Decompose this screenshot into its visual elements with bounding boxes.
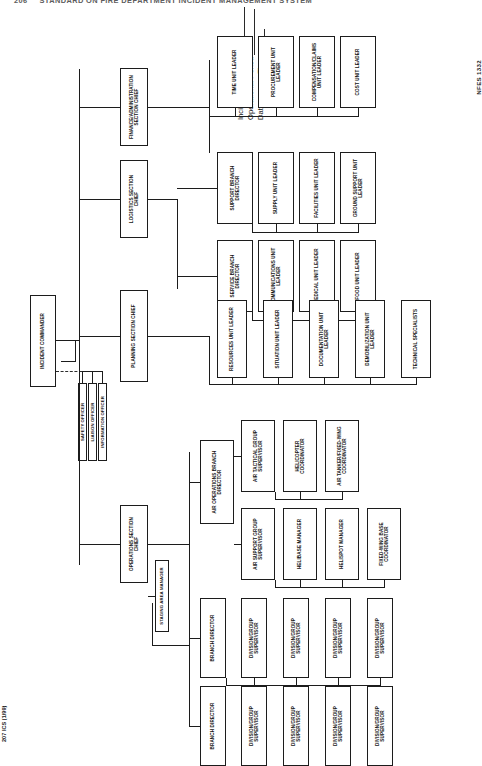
connector-support-bar <box>252 232 359 233</box>
connector-ic-to-spine <box>56 340 80 341</box>
connector-service-branch-down <box>252 312 253 321</box>
connector-service-branch-in <box>177 276 217 277</box>
connector-branch-bar <box>152 645 190 646</box>
connector-branch1-down <box>226 678 227 686</box>
connector-branch1-in <box>189 638 200 639</box>
box-fixed-wing-base-coordinator[interactable]: FIXED-WING BASE COORDINATOR <box>367 508 401 580</box>
connector-staff-bus <box>82 371 103 372</box>
box-air-operations-branch-director[interactable]: AIR OPERATIONS BRANCH DIRECTOR <box>200 440 234 524</box>
box-division-group-supervisor-2b[interactable]: DIVISION/GROUP SUPERVISOR <box>283 686 309 766</box>
box-division-group-supervisor-1d[interactable]: DIVISION/GROUP SUPERVISOR <box>367 598 393 678</box>
box-division-group-supervisor-2c[interactable]: DIVISION/GROUP SUPERVISOR <box>325 686 351 766</box>
box-division-group-supervisor-1a[interactable]: DIVISION/GROUP SUPERVISOR <box>241 598 267 678</box>
box-branch-director-1[interactable]: BRANCH DIRECTOR <box>200 598 226 678</box>
box-documentation-unit-leader[interactable]: DOCUMENTATION UNIT LEADER <box>309 300 339 378</box>
connector-asgs-down <box>275 580 276 588</box>
connector-atgs-bar <box>275 499 343 500</box>
connector-ops-bus <box>189 452 190 612</box>
box-staging-area-manager[interactable]: STAGING AREA MANAGER <box>155 560 169 632</box>
box-division-group-supervisor-1c[interactable]: DIVISION/GROUP SUPERVISOR <box>325 598 351 678</box>
box-support-branch-director[interactable]: SUPPORT BRANCH DIRECTOR <box>217 152 253 224</box>
box-helicopter-coordinator[interactable]: HELICOPTER COORDINATOR <box>283 420 317 492</box>
connector-finance-bus <box>209 60 210 153</box>
connector-spine-logistics <box>79 199 120 200</box>
connector-spine-operations <box>79 544 120 545</box>
connector-finance-bar <box>209 116 359 117</box>
box-finance-section-chief[interactable]: FINANCE/ADMINISTRATION SECTION CHIEF <box>120 68 148 146</box>
box-branch-director-2[interactable]: BRANCH DIRECTOR <box>200 686 226 766</box>
box-compensation-claims-unit-leader[interactable]: COMPENSATION/CLAIMS UNIT LEADER <box>299 36 335 108</box>
box-information-officer[interactable]: INFORMATION OFFICER <box>98 383 107 461</box>
box-division-group-supervisor-2d[interactable]: DIVISION/GROUP SUPERVISOR <box>367 686 393 766</box>
connector-air-ops-in <box>189 482 200 483</box>
connector-planning-bar <box>209 384 417 385</box>
box-resources-unit-leader[interactable]: RESOURCES UNIT LEADER <box>217 300 247 378</box>
connector-staff-drop-2 <box>92 371 93 383</box>
box-division-group-supervisor-2a[interactable]: DIVISION/GROUP SUPERVISOR <box>241 686 267 766</box>
box-division-group-supervisor-1b[interactable]: DIVISION/GROUP SUPERVISOR <box>283 598 309 678</box>
connector-ops-stem <box>148 544 190 545</box>
nfes-number: NFES 1332 <box>475 60 482 95</box>
box-ground-support-unit-leader[interactable]: GROUND SUPPORT UNIT LEADER <box>340 152 376 224</box>
connector-atgs-down <box>275 492 276 500</box>
connector-spine-finance <box>79 107 120 108</box>
connector-finance-bus-stem <box>148 107 210 108</box>
connector-command-staff-stem <box>75 340 76 362</box>
connector-branch-bus-left <box>152 603 153 646</box>
connector-logistics-stem <box>148 199 178 200</box>
box-procurement-unit-leader[interactable]: PROCUREMENT UNIT LEADER <box>258 36 294 108</box>
box-situation-unit-leader[interactable]: SITUATION UNIT LEADER <box>263 300 293 378</box>
box-technical-specialists[interactable]: TECHNICAL SPECIALISTS <box>401 300 431 378</box>
connector-branch2-in <box>189 726 200 727</box>
box-air-support-group-supervisor[interactable]: AIR SUPPORT GROUP SUPERVISOR <box>241 508 275 580</box>
connector-planning-bus <box>209 336 210 385</box>
form-number: 207 ICS (1/99) <box>1 706 7 742</box>
box-incident-commander[interactable]: INCIDENT COMMANDER <box>30 295 56 387</box>
connector-staff-drop-3 <box>102 371 103 383</box>
connector-support-branch-in <box>177 188 217 189</box>
box-liaison-officer[interactable]: LIAISON OFFICER <box>88 383 97 461</box>
connector-asgs-bar <box>275 587 385 588</box>
box-helispot-manager[interactable]: HELISPOT MANAGER <box>325 508 359 580</box>
connector-planning-stem <box>148 336 209 337</box>
spine-main <box>79 107 80 544</box>
box-air-tactical-group-supervisor[interactable]: AIR TACTICAL GROUP SUPERVISOR <box>241 420 275 492</box>
box-cost-unit-leader[interactable]: COST UNIT LEADER <box>340 36 376 108</box>
connector-staff-bar-left <box>61 361 75 362</box>
box-demobilization-unit-leader[interactable]: DEMOBILIZATION UNIT LEADER <box>355 300 385 378</box>
box-logistics-section-chief[interactable]: LOGISTICS SECTION CHIEF <box>120 160 148 238</box>
connector-atgs-in <box>234 456 241 457</box>
box-helibase-manager[interactable]: HELIBASE MANAGER <box>283 508 317 580</box>
connector-staff-drop-1 <box>82 371 83 383</box>
connector-branch-spine <box>189 638 190 726</box>
connector-spine-planning <box>79 336 120 337</box>
connector-staging-in <box>148 596 155 597</box>
box-time-unit-leader[interactable]: TIME UNIT LEADER <box>217 36 253 108</box>
connector-support-branch-down <box>252 224 253 233</box>
box-operations-section-chief[interactable]: OPERATIONS SECTION CHIEF <box>120 505 148 583</box>
box-planning-section-chief[interactable]: PLANNING SECTION CHIEF <box>120 290 148 382</box>
box-facilities-unit-leader[interactable]: FACILITIES UNIT LEADER <box>299 152 335 224</box>
connector-asgs-in <box>234 544 241 545</box>
box-supply-unit-leader[interactable]: SUPPLY UNIT LEADER <box>258 152 294 224</box>
box-air-tanker-fixed-wing-coordinator[interactable]: AIR TANKER/FIXED-WING COORDINATOR <box>325 420 359 492</box>
